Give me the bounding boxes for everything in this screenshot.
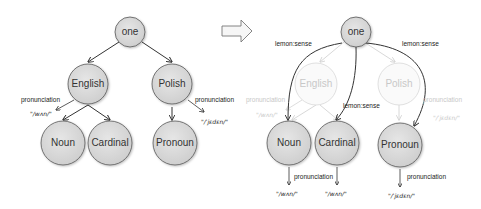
node-noun: Noun	[267, 121, 311, 165]
edge-label: pronunciation	[21, 96, 60, 104]
node-one: one	[341, 17, 371, 47]
node-label: one	[348, 26, 365, 37]
node-label: Polish	[158, 78, 185, 89]
diagram-canvas: one English Polish Noun Cardinal Pronoun…	[0, 0, 481, 209]
edge-english-cardinal	[88, 105, 110, 120]
node-polish-faded: Polish	[378, 63, 420, 105]
node-noun: Noun	[41, 121, 85, 165]
node-label: Polish	[385, 78, 412, 89]
node-label: Pronoun	[156, 137, 194, 148]
node-pronoun: Pronoun	[378, 123, 422, 167]
edge-label: pronunciation	[407, 173, 446, 181]
pronunciation-value: "/ˈjɛdɛn/"	[388, 192, 415, 200]
node-english: English	[68, 64, 108, 104]
pronunciation-value: "/wʌn/"	[30, 110, 52, 117]
pronunciation-value: "/wʌn/"	[325, 190, 347, 197]
left-diagram: one English Polish Noun Cardinal Pronoun…	[21, 17, 234, 165]
pronunciation-value: "/wʌn/"	[276, 190, 298, 197]
edge-one-polish	[142, 42, 172, 62]
edge-one-english	[88, 42, 119, 62]
pronunciation-value: "/wʌn/"	[256, 111, 278, 118]
edge-label: pronunciation	[195, 96, 234, 104]
node-label: Cardinal	[91, 137, 128, 148]
node-label: Cardinal	[318, 137, 355, 148]
edge-label: pronunciation	[246, 96, 285, 104]
edge-english-noun	[63, 105, 88, 120]
node-one: one	[115, 17, 145, 47]
edge-label: lemon:sense	[275, 40, 312, 47]
edge-label: pronunciation	[423, 96, 462, 104]
edge-label: pronunciation	[294, 173, 333, 181]
node-english-faded: English	[295, 63, 337, 105]
node-polish: Polish	[152, 64, 192, 104]
edge-sense-cardinal	[336, 47, 356, 120]
edge-label: lemon:sense	[402, 40, 439, 47]
pronunciation-value: "/ˈjɛdɛn/"	[201, 118, 228, 126]
node-cardinal: Cardinal	[315, 121, 359, 165]
arrow-right-icon	[222, 20, 252, 42]
edge-faded	[292, 105, 316, 120]
edge-faded	[320, 105, 338, 120]
node-label: Pronoun	[381, 139, 419, 150]
node-label: English	[300, 78, 333, 89]
node-label: English	[72, 78, 105, 89]
node-label: Noun	[51, 137, 75, 148]
node-label: one	[122, 26, 139, 37]
pronunciation-value: "/ˈjɛdɛn/"	[433, 114, 460, 122]
edge-label: lemon:sense	[343, 102, 380, 109]
right-diagram: English Polish one Noun Cardinal Pron	[246, 17, 462, 200]
node-cardinal: Cardinal	[88, 121, 132, 165]
node-pronoun: Pronoun	[153, 121, 197, 165]
node-label: Noun	[277, 137, 301, 148]
